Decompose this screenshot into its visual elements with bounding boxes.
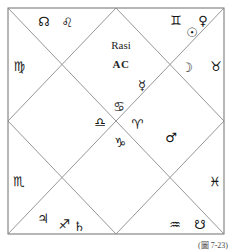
sign-aquarius-glyph: ♒ — [169, 218, 181, 231]
planet-ketu-glyph: ☋ — [194, 218, 206, 231]
sign-gemini-glyph: ♊ — [170, 14, 182, 27]
sign-cancer-glyph: ♋ — [113, 100, 125, 113]
sign-capricorn-glyph: ♑ — [114, 136, 126, 149]
sign-scorpio-glyph: ♏ — [13, 175, 25, 188]
planet-rahu-glyph: ☊ — [38, 15, 50, 28]
sign-taurus-glyph: ♉ — [210, 60, 222, 73]
chart-title-rasi: Rasi — [111, 40, 131, 51]
sign-aries-glyph: ♈ — [131, 118, 143, 131]
planet-jupiter-glyph: ♃ — [37, 212, 49, 225]
planet-sun-glyph: ☉ — [186, 26, 198, 39]
sign-virgo-glyph: ♍ — [13, 60, 25, 73]
sign-sagittarius-glyph: ♐ — [58, 218, 70, 231]
chart-glyph-layer: ♌ ♊ ♉ ♍ ♋ ♎ ♈ ♑ ♏ ♓ ♐ ♒ ☊ ♀ ☉ ☽ ☿ ♂ ♃ ♄ … — [0, 0, 232, 252]
figure-caption: (圖 7-23) — [198, 239, 228, 250]
chart-ascendant-label: AC — [113, 59, 130, 70]
sign-pisces-glyph: ♓ — [209, 175, 221, 188]
planet-mercury-glyph: ☿ — [138, 79, 146, 92]
planet-saturn-glyph: ♄ — [73, 220, 85, 233]
planet-venus-glyph: ♀ — [198, 14, 208, 27]
sign-libra-glyph: ♎ — [94, 116, 106, 129]
rasi-chart-figure: ♌ ♊ ♉ ♍ ♋ ♎ ♈ ♑ ♏ ♓ ♐ ♒ ☊ ♀ ☉ ☽ ☿ ♂ ♃ ♄ … — [0, 0, 232, 252]
sign-leo-glyph: ♌ — [61, 16, 73, 29]
planet-mars-glyph: ♂ — [165, 131, 177, 144]
planet-moon-glyph: ☽ — [181, 61, 193, 74]
